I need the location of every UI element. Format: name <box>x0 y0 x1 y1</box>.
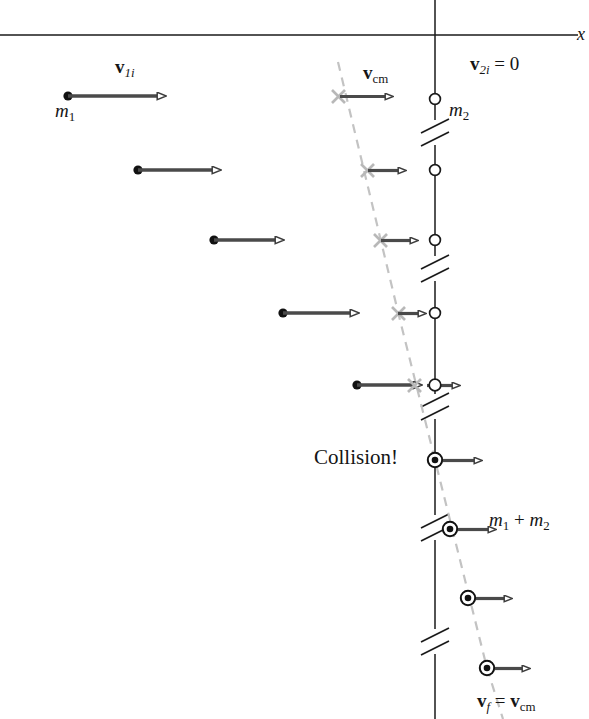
particle-m2 <box>430 94 441 105</box>
break-mark <box>421 119 449 146</box>
break-mark <box>421 393 449 420</box>
break-mark <box>421 255 449 282</box>
particle-combined-core <box>447 526 454 533</box>
label-mass-2: m2 <box>449 100 469 123</box>
particle-combined-core <box>432 457 439 464</box>
snapshot-row-9 <box>480 661 522 675</box>
particle-combined-core <box>465 595 472 602</box>
diagram-canvas <box>0 0 589 719</box>
snapshot-row-5-contact <box>352 379 452 392</box>
break-mark <box>421 628 449 655</box>
label-combined-mass: m1 + m2 <box>489 510 550 533</box>
particle-combined-core <box>484 665 491 672</box>
label-mass-1: m1 <box>55 101 75 124</box>
snapshot-row-4 <box>278 307 440 320</box>
snapshot-row-7 <box>443 522 488 536</box>
label-velocity-v2i-zero: v2i = 0 <box>470 54 519 77</box>
snapshot-row-6-collision <box>428 453 474 467</box>
label-collision: Collision! <box>314 447 398 468</box>
particle-m2 <box>430 165 441 176</box>
label-vf-equals-vcm: vf = vcm <box>477 691 536 714</box>
snapshot-row-3 <box>209 234 440 247</box>
axis-label-x: x <box>577 25 585 43</box>
label-velocity-v1i: v1i <box>115 57 135 80</box>
snapshot-row-2 <box>133 164 440 177</box>
snapshot-row-1 <box>63 90 440 104</box>
label-velocity-vcm: vcm <box>363 63 388 86</box>
physics-diagram-figure: x m1 v1i vcm v2i = 0 m2 Collision! m1 + … <box>0 0 589 719</box>
particle-m2 <box>430 308 441 319</box>
particle-m2 <box>429 379 441 391</box>
snapshot-row-8 <box>461 591 504 605</box>
particle-m2 <box>430 235 441 246</box>
